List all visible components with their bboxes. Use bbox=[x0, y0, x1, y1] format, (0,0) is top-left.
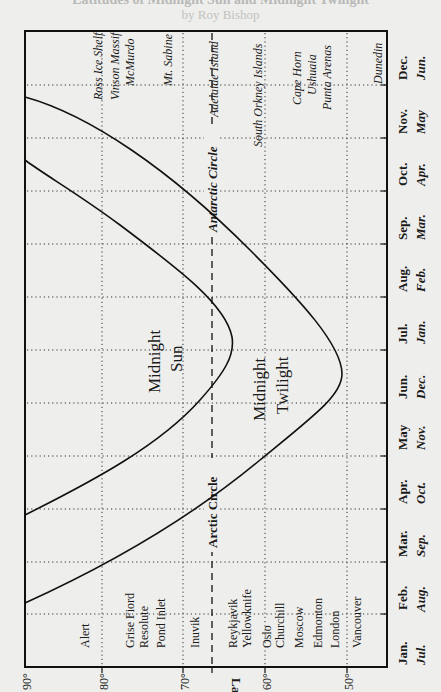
svg-text:Apr.: Apr. bbox=[413, 163, 428, 187]
svg-text:Feb.: Feb. bbox=[395, 586, 410, 610]
svg-text:Dec.: Dec. bbox=[395, 56, 410, 80]
place-adelaide-island: Adelaide Island bbox=[207, 40, 221, 118]
place-london: London bbox=[328, 611, 342, 648]
place-vinson-massif: Vinson Massif bbox=[108, 31, 122, 100]
tick-90: 90° bbox=[20, 673, 34, 690]
svg-text:Mar.: Mar. bbox=[395, 530, 410, 557]
svg-text:Sep.: Sep. bbox=[413, 534, 428, 557]
place-yellowknife: Yellowknife bbox=[240, 589, 254, 648]
tick-60: 60° bbox=[260, 673, 274, 690]
svg-text:Jul.: Jul. bbox=[395, 323, 410, 344]
place-pond-inlet: Pond Inlet bbox=[154, 598, 168, 648]
arctic-circle-label: Arctic Circle bbox=[205, 476, 220, 548]
svg-text:Jan.: Jan. bbox=[413, 321, 428, 345]
svg-text:Aug.: Aug. bbox=[395, 266, 410, 292]
place-churchill: Churchill bbox=[273, 602, 287, 648]
place-edmonton: Edmonton bbox=[311, 598, 325, 648]
tick-70: 70° bbox=[178, 673, 192, 690]
latitude-gridlines bbox=[102, 33, 347, 665]
place-mt-sabine: Mt. Sabine bbox=[161, 33, 175, 87]
latitude-axis-label: Latitude bbox=[229, 678, 244, 692]
svg-text:Jun.: Jun. bbox=[413, 56, 428, 81]
svg-text:Aug.: Aug. bbox=[413, 586, 428, 613]
svg-text:Dec.: Dec. bbox=[413, 375, 428, 400]
place-mcmurdo: McMurdo bbox=[123, 38, 137, 87]
place-resolute: Resolute bbox=[137, 606, 151, 648]
midnight-sun-curve bbox=[25, 160, 233, 515]
tick-80: 80° bbox=[97, 673, 111, 690]
svg-text:Sep.: Sep. bbox=[395, 217, 410, 240]
northern-places: Alert Grise Fiord Resolute Pond Inlet In… bbox=[78, 589, 364, 648]
svg-text:May: May bbox=[395, 424, 410, 450]
place-punta-arenas: Punta Arenas bbox=[320, 45, 334, 111]
place-moscow: Moscow bbox=[292, 606, 306, 648]
svg-text:Feb.: Feb. bbox=[413, 268, 428, 293]
svg-text:Apr.: Apr. bbox=[395, 480, 410, 504]
svg-text:Nov.: Nov. bbox=[395, 109, 410, 134]
place-oslo: Oslo bbox=[260, 625, 274, 648]
place-ushuaia: Ushuaia bbox=[305, 54, 319, 95]
latitude-tick-labels: 90° 80° 70° 60° 50° bbox=[20, 673, 356, 690]
midnight-sun-label-1: Midnight bbox=[145, 329, 164, 393]
place-inuvik: Inuvik bbox=[188, 617, 202, 648]
place-reykjavik: Reykjavik bbox=[226, 599, 240, 648]
midnight-sun-chart: Arctic Circle Antarctic Circle Midnight … bbox=[0, 0, 441, 692]
place-ross-ice-shelf: Ross Ice Shelf bbox=[91, 31, 105, 101]
midnight-sun-label-2: Sun bbox=[167, 345, 186, 372]
place-alert: Alert bbox=[78, 623, 92, 648]
svg-text:Jul.: Jul. bbox=[413, 644, 428, 666]
place-cape-horn: Cape Horn bbox=[290, 51, 304, 105]
place-south-orkney-islands: South Orkney Islands bbox=[251, 43, 265, 147]
month-labels-north: Jan. Feb. Mar. Apr. May Jun. Jul. Aug. S… bbox=[395, 56, 410, 665]
midnight-twilight-label-2: Twilight bbox=[273, 356, 292, 414]
place-dunedin: Dunedin bbox=[371, 43, 385, 85]
tick-50: 50° bbox=[342, 673, 356, 690]
midnight-twilight-label-1: Midnight bbox=[250, 357, 269, 421]
svg-text:Oct.: Oct. bbox=[395, 163, 410, 186]
svg-text:Mar.: Mar. bbox=[413, 214, 428, 241]
place-grise-fiord: Grise Fiord bbox=[123, 593, 137, 648]
svg-text:Nov.: Nov. bbox=[413, 426, 428, 451]
month-labels-south: Jul. Aug. Sep. Oct. Nov. Dec. Jan. Feb. … bbox=[413, 56, 428, 666]
svg-text:Jan.: Jan. bbox=[395, 642, 410, 665]
svg-text:Oct.: Oct. bbox=[413, 482, 428, 504]
svg-text:Jun.: Jun. bbox=[395, 375, 410, 399]
place-vancouver: Vancouver bbox=[350, 597, 364, 648]
svg-text:May: May bbox=[413, 110, 428, 135]
southern-places: Ross Ice Shelf Vinson Massif McMurdo Mt.… bbox=[91, 31, 385, 147]
